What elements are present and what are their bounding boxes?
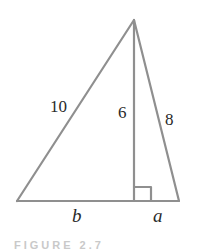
right-angle-marker — [134, 187, 151, 201]
base-segment-a-label: a — [153, 205, 163, 226]
left-side-line — [17, 20, 134, 201]
base-segment-b-label: b — [72, 205, 82, 226]
left-side-label: 10 — [50, 97, 67, 116]
altitude-label: 6 — [118, 103, 127, 122]
right-side-label: 8 — [165, 110, 174, 129]
figure-caption: FIGURE 2.7 — [14, 239, 104, 251]
